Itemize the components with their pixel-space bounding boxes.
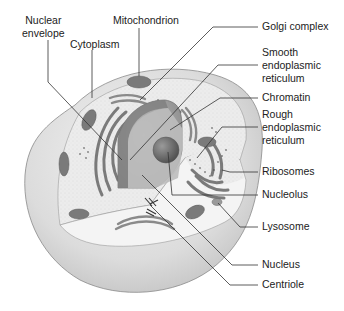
label-cytoplasm: Cytoplasm bbox=[70, 38, 120, 51]
label-centriole: Centriole bbox=[262, 278, 304, 291]
label-rough-er: Rough endoplasmic reticulum bbox=[262, 108, 321, 147]
nucleolus bbox=[153, 137, 179, 163]
label-mitochondrion: Mitochondrion bbox=[113, 14, 179, 27]
label-smooth-er: Smooth endoplasmic reticulum bbox=[262, 46, 321, 85]
label-ribosomes: Ribosomes bbox=[262, 165, 315, 178]
label-lysosome: Lysosome bbox=[262, 220, 309, 233]
lysosome bbox=[212, 199, 222, 206]
label-golgi-complex: Golgi complex bbox=[262, 20, 329, 33]
label-nucleolus: Nucleolus bbox=[262, 188, 308, 201]
label-chromatin: Chromatin bbox=[262, 91, 310, 104]
label-nucleus: Nucleus bbox=[262, 258, 300, 271]
label-nuclear-envelope: Nuclear envelope bbox=[22, 14, 65, 40]
